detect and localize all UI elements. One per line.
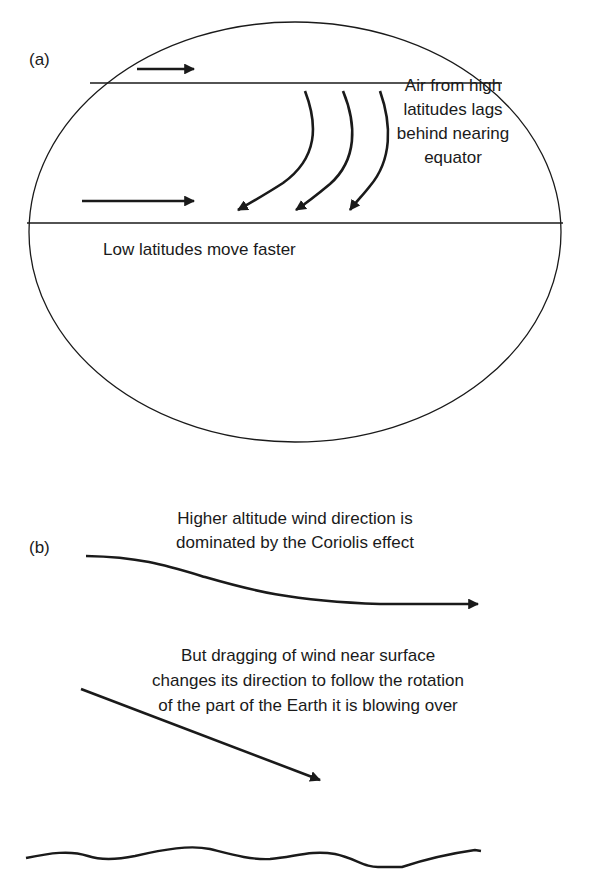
deflected-air-arrow-2 [296,91,352,210]
upper-wind-arrow [86,556,478,604]
low-latitudes-annotation: Low latitudes move faster [103,240,296,260]
air-lag-annotation: Air from high latitudes lags behind near… [383,74,523,170]
surface-drag-annotation: But dragging of wind near surface change… [148,643,468,718]
higher-altitude-annotation: Higher altitude wind direction is domina… [150,507,440,555]
ground-surface-line [26,847,481,867]
deflected-air-arrow-1 [238,91,313,210]
panel-a-label: (a) [29,50,50,70]
panel-b-label: (b) [29,538,50,558]
